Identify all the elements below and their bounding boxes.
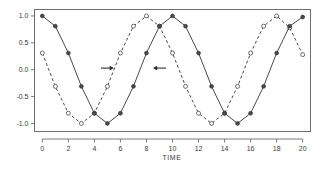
solid-series-point (184, 24, 188, 28)
dashed-series (40, 14, 304, 125)
dashed-series-point (275, 14, 279, 18)
dashed-series-point (118, 51, 122, 55)
x-tick-label: 20 (299, 145, 307, 152)
x-tick-label: 2 (66, 145, 70, 152)
x-tick-label: 14 (221, 145, 229, 152)
solid-series-point (197, 51, 201, 55)
dashed-series-point (184, 84, 188, 88)
solid-series-point (236, 122, 240, 126)
solid-series-point (223, 111, 227, 115)
dashed-series-point (197, 111, 201, 115)
x-tick-label: 10 (169, 145, 177, 152)
solid-series-point (249, 111, 253, 115)
solid-series-point (66, 51, 70, 55)
x-tick-label: 8 (145, 145, 149, 152)
x-tick-label: 16 (247, 145, 255, 152)
dashed-series-point (210, 121, 214, 125)
x-axis: 02468101214161820 (40, 139, 306, 152)
solid-series-point (145, 51, 149, 55)
solid-series-point (53, 24, 57, 28)
x-tick-label: 12 (195, 145, 203, 152)
plot-frame (35, 10, 311, 132)
dashed-series-point (144, 14, 148, 18)
solid-series-point (132, 84, 136, 88)
dashed-series-point (79, 121, 83, 125)
dashed-series-line (42, 16, 302, 123)
y-tick-label: 1.0 (19, 12, 29, 19)
y-axis: 1.00.50.0-0.5-1.0 (16, 12, 34, 126)
dashed-series-point (262, 24, 266, 28)
dashed-series-point (249, 51, 253, 55)
y-tick-label: 0.0 (19, 66, 29, 73)
chart-figure: 1.00.50.0-0.5-1.0 02468101214161820 TIME (0, 0, 323, 172)
solid-series-point (288, 24, 292, 28)
solid-series-point (79, 84, 83, 88)
dashed-series-point (66, 111, 70, 115)
x-tick-label: 18 (273, 145, 281, 152)
solid-series-point (171, 14, 175, 18)
solid-series-point (92, 111, 96, 115)
solid-series-point (119, 111, 123, 115)
dashed-series-point (131, 24, 135, 28)
dashed-series-point (236, 84, 240, 88)
solid-series-point (301, 15, 305, 19)
solid-series-point (106, 122, 110, 126)
x-axis-title: TIME (162, 154, 181, 161)
solid-series-point (210, 84, 214, 88)
solid-series (40, 14, 304, 125)
solid-series-point (40, 14, 44, 18)
solid-series-point (262, 84, 266, 88)
solid-series-line (42, 16, 302, 123)
y-tick-label: -0.5 (16, 93, 28, 100)
right-arrow-head (110, 66, 114, 71)
sinusoid-plot: 1.00.50.0-0.5-1.0 02468101214161820 TIME (0, 0, 323, 172)
dashed-series-point (301, 53, 305, 57)
y-tick-label: 0.5 (19, 39, 29, 46)
left-arrow-head (153, 66, 157, 71)
dashed-series-point (53, 84, 57, 88)
x-tick-label: 0 (40, 145, 44, 152)
dashed-series-point (40, 51, 44, 55)
y-tick-label: -1.0 (16, 120, 28, 127)
annotations (101, 66, 166, 71)
x-tick-label: 4 (92, 145, 96, 152)
dashed-series-point (171, 51, 175, 55)
x-tick-label: 6 (118, 145, 122, 152)
solid-series-point (158, 24, 162, 28)
dashed-series-point (105, 84, 109, 88)
solid-series-point (275, 51, 279, 55)
